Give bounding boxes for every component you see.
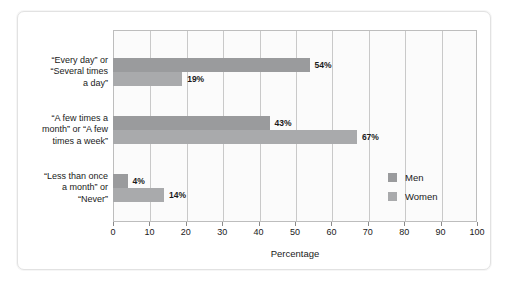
legend-item-men: Men [388,168,438,187]
x-tick-mark [404,222,405,226]
x-tick-label: 30 [217,227,227,237]
category-label-line: month” or “A few [5,124,108,136]
bar-women-2 [113,130,357,144]
legend-item-women: Women [388,187,438,206]
x-tick-label: 40 [254,227,264,237]
bar-value-men-2: 43% [275,116,292,130]
x-tick-label: 60 [326,227,336,237]
bar-men-1 [113,58,310,72]
x-tick-mark [113,222,114,226]
x-axis-ticks: 0102030405060708090100 [113,222,477,242]
category-label-line: a day” [5,78,108,90]
x-tick-label: 10 [144,227,154,237]
x-tick-label: 70 [363,227,373,237]
x-tick-mark [441,222,442,226]
bar-men-2 [113,116,270,130]
x-tick-mark [295,222,296,226]
bar-women-1 [113,72,182,86]
category-label-line: “Never” [5,194,108,206]
category-label-line: “A few times a [5,113,108,125]
category-label-line: times a week” [5,136,108,148]
x-tick-mark [149,222,150,226]
bar-value-men-1: 54% [315,58,332,72]
x-axis-title: Percentage [113,248,477,259]
category-label-line: “Several times [5,66,108,78]
category-label-line: “Less than once [5,171,108,183]
x-tick-mark [477,222,478,226]
x-tick-label: 50 [290,227,300,237]
x-tick-mark [186,222,187,226]
x-tick-mark [368,222,369,226]
bar-value-men-3: 4% [133,174,145,188]
bar-value-women-2: 67% [362,130,379,144]
category-axis-labels: “Every day” or“Several timesa day”“A few… [0,0,108,285]
bar-women-3 [113,188,164,202]
category-label-3: “Less than oncea month” or“Never” [5,171,108,206]
x-tick-mark [222,222,223,226]
bar-men-3 [113,174,128,188]
x-tick-mark [331,222,332,226]
legend-swatch-women-icon [388,192,397,201]
x-tick-label: 20 [181,227,191,237]
bar-value-women-3: 14% [169,188,186,202]
x-tick-label: 100 [469,227,484,237]
category-label-2: “A few times amonth” or “A fewtimes a we… [5,113,108,148]
legend-label-women: Women [405,191,438,202]
x-tick-label: 80 [399,227,409,237]
legend-swatch-men-icon [388,173,397,182]
legend-label-men: Men [405,172,423,183]
x-tick-mark [259,222,260,226]
category-label-line: a month” or [5,182,108,194]
bar-value-women-1: 19% [187,72,204,86]
x-tick-label: 0 [110,227,115,237]
chart-legend: Men Women [388,168,438,206]
category-label-1: “Every day” or“Several timesa day” [5,55,108,90]
x-tick-label: 90 [436,227,446,237]
chart-figure: “Every day” or“Several timesa day”“A few… [0,0,509,285]
category-label-line: “Every day” or [5,55,108,67]
